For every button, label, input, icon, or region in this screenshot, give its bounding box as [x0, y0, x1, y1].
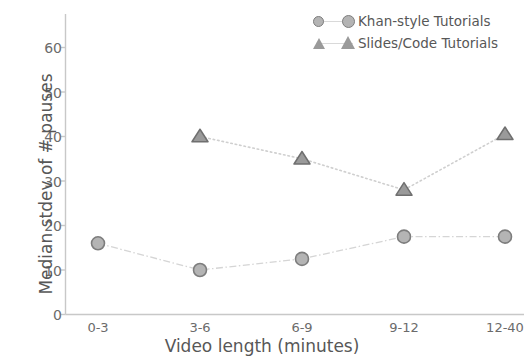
series-markers-slides-code — [192, 127, 513, 195]
circle-marker-icon — [313, 16, 324, 27]
data-point-marker — [192, 129, 208, 142]
y-axis-title: Median stdev of # pauses — [36, 73, 56, 294]
legend-label-slides-code: Slides/Code Tutorials — [358, 35, 498, 51]
series-line-slides-code — [200, 134, 505, 190]
legend-marker-group-circle — [312, 11, 358, 31]
data-point-marker — [499, 230, 512, 243]
x-tick-label: 6-9 — [291, 320, 312, 335]
data-point-marker — [396, 183, 412, 196]
plot-area — [0, 0, 524, 363]
circle-marker-icon — [342, 15, 355, 28]
x-tick-label: 0-3 — [87, 320, 108, 335]
x-tick-label: 9-12 — [389, 320, 419, 335]
y-axis-title-wrapper: Median stdev of # pauses — [34, 44, 58, 324]
legend-entry-khan-style: Khan-style Tutorials — [312, 10, 518, 32]
data-point-marker — [497, 127, 513, 139]
x-tick-label: 12-40 — [486, 320, 524, 335]
x-axis-title-wrapper: Video length (minutes) — [0, 336, 524, 356]
legend-entry-slides-code: Slides/Code Tutorials — [312, 32, 518, 54]
data-point-marker — [92, 237, 105, 250]
triangle-marker-icon — [313, 38, 325, 49]
legend-marker-group-triangle — [312, 33, 358, 53]
triangle-marker-icon — [341, 36, 355, 49]
data-point-marker — [194, 264, 207, 277]
data-point-marker — [398, 230, 411, 243]
chart-legend: Khan-style Tutorials Slides/Code Tutoria… — [312, 10, 518, 54]
legend-label-khan-style: Khan-style Tutorials — [358, 13, 490, 29]
chart-figure: 60 50 40 30 20 10 0 0-3 3-6 6-9 9-12 12-… — [0, 0, 524, 363]
x-axis-title: Video length (minutes) — [165, 336, 360, 356]
data-point-marker — [296, 252, 309, 265]
x-tick-label: 3-6 — [189, 320, 210, 335]
